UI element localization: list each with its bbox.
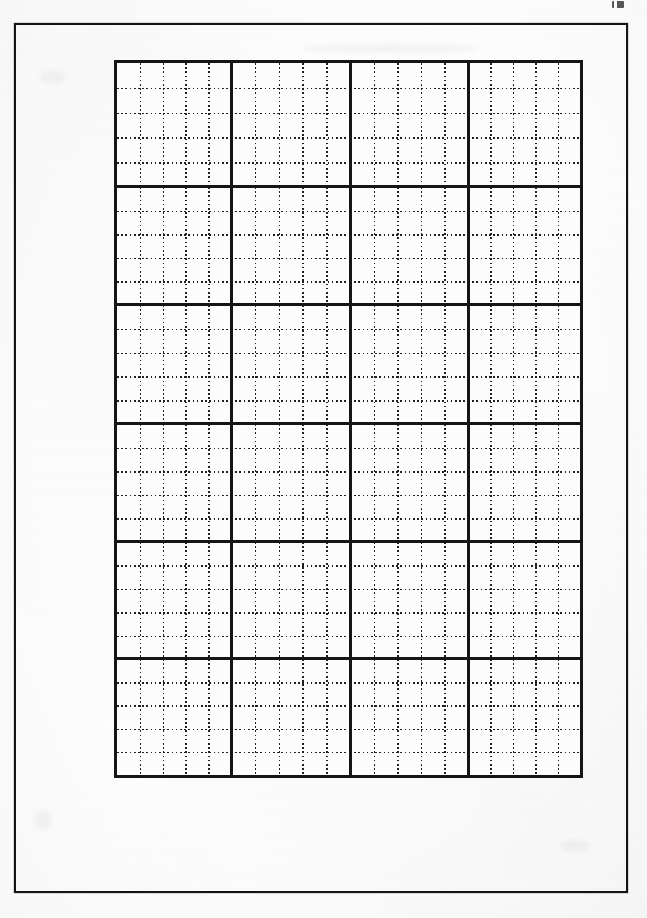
- grid-cell: [231, 63, 350, 187]
- dotted-guide-rule-vertical: [490, 187, 491, 305]
- dotted-guide-rule-vertical: [397, 187, 398, 305]
- dotted-guide-rule-vertical: [185, 305, 186, 424]
- dotted-guide-rule-vertical: [279, 659, 280, 775]
- dotted-guide-rule-horizontal: [117, 353, 231, 354]
- dotted-guide-rule-vertical: [140, 542, 141, 659]
- dotted-guide-rule-horizontal: [350, 495, 468, 496]
- dotted-guide-rule-horizontal: [117, 162, 231, 163]
- dotted-guide-rule-vertical: [255, 187, 256, 305]
- dotted-guide-rule-horizontal: [468, 518, 580, 519]
- dotted-guide-rule-horizontal: [117, 211, 231, 212]
- dotted-guide-rule-vertical: [326, 659, 327, 775]
- dotted-guide-rule-horizontal: [350, 682, 468, 683]
- dotted-guide-rule-horizontal: [117, 113, 231, 114]
- dotted-guide-rule-horizontal: [117, 88, 231, 89]
- dotted-guide-rule-horizontal: [468, 682, 580, 683]
- dotted-guide-rule-vertical: [163, 305, 164, 424]
- dotted-guide-rule-vertical: [444, 187, 445, 305]
- dotted-guide-rule-vertical: [302, 305, 303, 424]
- dotted-guide-rule-horizontal: [350, 705, 468, 706]
- scanned-page: [0, 0, 647, 918]
- dotted-guide-rule-vertical: [255, 659, 256, 775]
- dotted-guide-rule-vertical: [535, 63, 536, 187]
- grid-cell: [231, 542, 350, 659]
- dotted-guide-rule-horizontal: [350, 162, 468, 163]
- grid-cell: [117, 542, 231, 659]
- dotted-guide-rule-vertical: [444, 542, 445, 659]
- dotted-guide-rule-vertical: [279, 63, 280, 187]
- dotted-guide-rule-horizontal: [468, 400, 580, 401]
- grid-cell: [117, 424, 231, 542]
- dotted-guide-rule-horizontal: [350, 518, 468, 519]
- dotted-guide-rule-horizontal: [350, 589, 468, 590]
- dotted-guide-rule-vertical: [326, 305, 327, 424]
- dotted-guide-rule-horizontal: [117, 137, 231, 138]
- dotted-guide-rule-horizontal: [350, 211, 468, 212]
- dotted-guide-rule-horizontal: [468, 636, 580, 637]
- dotted-guide-rule-horizontal: [350, 376, 468, 377]
- major-row-rule: [117, 303, 580, 306]
- dotted-guide-rule-vertical: [326, 542, 327, 659]
- grid-cell: [350, 305, 468, 424]
- dotted-guide-rule-vertical: [279, 424, 280, 542]
- dotted-guide-rule-vertical: [185, 659, 186, 775]
- dotted-guide-rule-vertical: [208, 305, 209, 424]
- dotted-guide-rule-horizontal: [350, 565, 468, 566]
- dotted-guide-rule-vertical: [397, 542, 398, 659]
- dotted-guide-rule-vertical: [208, 424, 209, 542]
- dotted-guide-rule-vertical: [535, 542, 536, 659]
- dotted-guide-rule-horizontal: [117, 682, 231, 683]
- dotted-guide-rule-vertical: [208, 187, 209, 305]
- grid-cell: [231, 424, 350, 542]
- major-row-rule: [117, 540, 580, 543]
- dotted-guide-rule-horizontal: [350, 88, 468, 89]
- dotted-guide-rule-vertical: [255, 424, 256, 542]
- dotted-guide-rule-vertical: [185, 187, 186, 305]
- dotted-guide-rule-vertical: [302, 63, 303, 187]
- dotted-guide-rule-horizontal: [231, 565, 350, 566]
- dotted-guide-rule-vertical: [558, 659, 559, 775]
- dotted-guide-rule-vertical: [397, 424, 398, 542]
- dotted-guide-rule-vertical: [444, 63, 445, 187]
- grid-cell: [468, 63, 580, 187]
- grid-cell: [117, 63, 231, 187]
- dotted-guide-rule-horizontal: [117, 705, 231, 706]
- dotted-guide-rule-vertical: [208, 63, 209, 187]
- major-row-rule: [117, 185, 580, 188]
- dotted-guide-rule-horizontal: [231, 471, 350, 472]
- dotted-guide-rule-horizontal: [231, 705, 350, 706]
- dotted-guide-rule-horizontal: [117, 752, 231, 753]
- dotted-guide-rule-vertical: [163, 542, 164, 659]
- dotted-guide-rule-vertical: [374, 424, 375, 542]
- dotted-guide-rule-vertical: [535, 305, 536, 424]
- dotted-guide-rule-horizontal: [231, 729, 350, 730]
- dotted-guide-rule-vertical: [185, 63, 186, 187]
- dotted-guide-rule-horizontal: [117, 612, 231, 613]
- dotted-guide-rule-vertical: [302, 542, 303, 659]
- dotted-guide-rule-vertical: [558, 187, 559, 305]
- major-row-rule: [117, 657, 580, 660]
- dotted-guide-rule-horizontal: [117, 258, 231, 259]
- grid-cell: [350, 424, 468, 542]
- dotted-guide-rule-horizontal: [350, 636, 468, 637]
- grid-cell: [231, 305, 350, 424]
- dotted-guide-rule-vertical: [279, 187, 280, 305]
- dotted-guide-rule-vertical: [163, 659, 164, 775]
- dotted-guide-rule-vertical: [255, 542, 256, 659]
- dotted-guide-rule-horizontal: [350, 729, 468, 730]
- dotted-guide-rule-vertical: [397, 305, 398, 424]
- dotted-guide-rule-horizontal: [117, 729, 231, 730]
- dotted-guide-rule-horizontal: [231, 329, 350, 330]
- dotted-guide-rule-horizontal: [350, 471, 468, 472]
- grid-cell: [468, 542, 580, 659]
- dotted-guide-rule-horizontal: [231, 448, 350, 449]
- dotted-guide-rule-vertical: [374, 305, 375, 424]
- dotted-guide-rule-vertical: [302, 659, 303, 775]
- dotted-guide-rule-vertical: [326, 63, 327, 187]
- dotted-guide-rule-vertical: [279, 305, 280, 424]
- dotted-guide-rule-vertical: [490, 305, 491, 424]
- dotted-guide-rule-vertical: [302, 424, 303, 542]
- dotted-guide-rule-horizontal: [468, 495, 580, 496]
- dotted-guide-rule-vertical: [421, 305, 422, 424]
- dotted-guide-rule-vertical: [421, 659, 422, 775]
